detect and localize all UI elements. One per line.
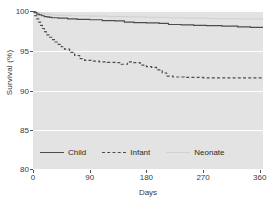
legend-item-infant: Infant <box>102 148 166 157</box>
x-axis-label: Days <box>33 188 263 197</box>
x-tick-mark-270 <box>203 170 204 173</box>
x-tick-label-360: 360 <box>245 173 271 182</box>
legend-label-child: Child <box>64 148 102 157</box>
legend-label-neonate: Neonate <box>190 148 240 157</box>
y-tick-mark-100 <box>30 11 33 12</box>
x-tick-mark-0 <box>33 170 34 173</box>
survival-chart-figure: 100 95 90 85 80 0 90 180 270 360 Surviva… <box>0 0 271 205</box>
x-tick-label-180: 180 <box>131 173 161 182</box>
chart-legend: Child Infant Neonate <box>40 148 241 157</box>
legend-swatch-infant-icon <box>102 149 126 157</box>
x-tick-label-270: 270 <box>188 173 218 182</box>
y-tick-mark-90 <box>30 91 33 92</box>
y-tick-mark-85 <box>30 130 33 131</box>
legend-swatch-neonate-icon <box>166 149 190 157</box>
legend-item-neonate: Neonate <box>166 148 240 157</box>
x-tick-label-0: 0 <box>18 173 48 182</box>
y-tick-mark-95 <box>30 51 33 52</box>
x-tick-mark-180 <box>146 170 147 173</box>
x-tick-mark-90 <box>90 170 91 173</box>
y-axis-label: Survival (%) <box>5 8 14 138</box>
legend-label-infant: Infant <box>126 148 166 157</box>
legend-swatch-child-icon <box>40 149 64 157</box>
x-tick-mark-360 <box>260 170 261 173</box>
legend-item-child: Child <box>40 148 102 157</box>
y-axis: 100 95 90 85 80 0 90 180 270 360 <box>0 0 271 205</box>
x-tick-label-90: 90 <box>75 173 105 182</box>
